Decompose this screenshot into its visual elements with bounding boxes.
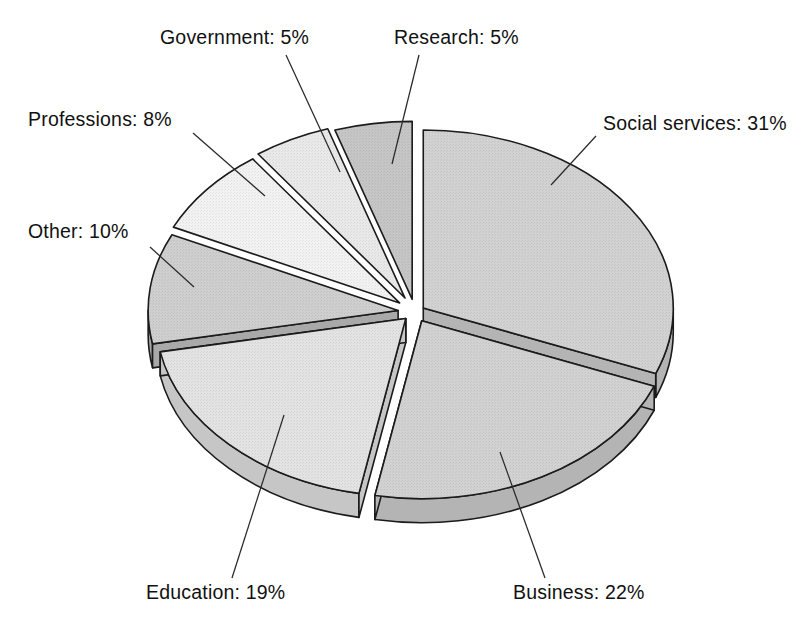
- slice-label-business: Business: 22%: [513, 581, 645, 603]
- slice-label-other: Other: 10%: [28, 220, 129, 242]
- slice-label-research: Research: 5%: [394, 26, 519, 48]
- slice-label-professions: Professions: 8%: [28, 108, 172, 130]
- slice-label-social-services: Social services: 31%: [603, 112, 787, 134]
- pie-chart-svg: Social services: 31%Business: 22%Educati…: [0, 0, 811, 623]
- slice-label-government: Government: 5%: [160, 26, 309, 48]
- slice-label-education: Education: 19%: [146, 581, 285, 603]
- pie-slices-group: [148, 121, 673, 522]
- pie-chart-figure: Social services: 31%Business: 22%Educati…: [0, 0, 811, 623]
